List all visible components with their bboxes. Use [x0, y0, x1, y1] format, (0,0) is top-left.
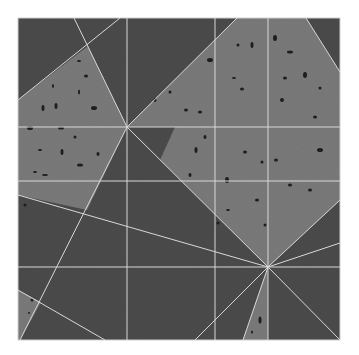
tile-floor-image: Photograph of a square tiled floor panel… [0, 0, 359, 355]
tile-pattern-graphic [0, 0, 359, 355]
